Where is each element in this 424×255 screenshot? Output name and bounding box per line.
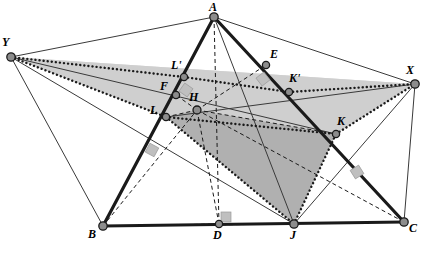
edge-X-C — [404, 84, 415, 222]
geometry-figure: AYXEL'K'FHLKBDJC — [0, 0, 424, 255]
vertex-label-X: X — [406, 64, 414, 76]
vertex-label-D: D — [213, 229, 222, 241]
vertex-node-B[interactable] — [99, 222, 107, 230]
vertex-node-D[interactable] — [215, 220, 222, 227]
vertex-label-A: A — [209, 1, 217, 13]
vertex-label-E: E — [270, 48, 278, 60]
vertex-node-H[interactable] — [193, 106, 201, 114]
right-angle-at-D — [221, 212, 231, 222]
vertex-label-L: L — [150, 104, 157, 116]
vertex-node-Y[interactable] — [7, 53, 15, 61]
edge-B-C — [103, 222, 404, 226]
vertex-node-L[interactable] — [162, 113, 169, 120]
vertex-node-Lp[interactable] — [180, 73, 187, 80]
vertex-label-K: K — [337, 115, 345, 127]
vertex-node-Kp[interactable] — [285, 88, 292, 95]
edge-Y-A — [11, 17, 214, 57]
vertex-label-Kp: K' — [289, 72, 300, 84]
vertex-node-K[interactable] — [332, 130, 339, 137]
vertex-label-Y: Y — [2, 36, 9, 48]
vertex-label-Lp: L' — [171, 59, 182, 71]
geometry-canvas — [0, 0, 424, 255]
vertex-label-J: J — [290, 229, 296, 241]
dashed-B-H — [103, 110, 197, 226]
vertex-node-J[interactable] — [290, 220, 298, 228]
vertex-node-E[interactable] — [262, 61, 269, 68]
vertex-label-H: H — [189, 91, 198, 103]
vertex-label-C: C — [409, 222, 417, 234]
vertex-node-C[interactable] — [400, 218, 408, 226]
vertex-node-X[interactable] — [411, 80, 419, 88]
vertex-label-B: B — [88, 228, 96, 240]
vertex-node-F[interactable] — [172, 91, 179, 98]
vertex-node-A[interactable] — [210, 13, 218, 21]
vertex-label-F: F — [160, 80, 168, 92]
